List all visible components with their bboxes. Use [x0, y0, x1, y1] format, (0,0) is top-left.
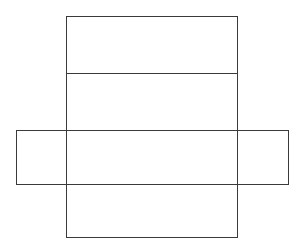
right-side-face — [238, 131, 289, 185]
prism-net-diagram — [0, 0, 304, 250]
back-face — [67, 74, 238, 131]
top-face — [67, 17, 238, 74]
left-side-face — [17, 131, 67, 185]
bottom-face — [67, 131, 238, 185]
front-face — [67, 185, 238, 238]
